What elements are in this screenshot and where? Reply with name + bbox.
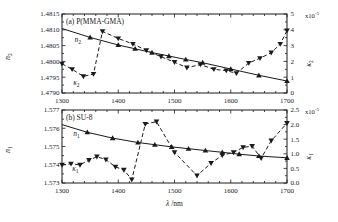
right-tick-label: 0 bbox=[291, 89, 295, 97]
kappa2-marker bbox=[211, 67, 217, 72]
kappa2-label: κ2 bbox=[73, 78, 80, 88]
left-tick-label: 1.4805 bbox=[40, 42, 60, 50]
right-tick-label: 1.5 bbox=[291, 136, 300, 144]
kappa2-marker bbox=[284, 28, 290, 33]
x-axis-title: λ /nm bbox=[165, 199, 183, 208]
x-tick-label: 1300 bbox=[55, 187, 70, 195]
right-tick-label: 5 bbox=[291, 10, 295, 18]
kappa2-marker bbox=[100, 29, 106, 34]
left-tick-label: 1.577 bbox=[44, 106, 60, 114]
left-tick-label: 1.575 bbox=[44, 143, 60, 151]
right-tick-label: 2 bbox=[291, 58, 295, 66]
kappa1-marker bbox=[142, 122, 148, 127]
kappa2-marker bbox=[234, 71, 240, 76]
x-tick-label: 1600 bbox=[224, 97, 239, 105]
left-tick-label: 1.4800 bbox=[40, 58, 60, 66]
left-tick-label: 1.573 bbox=[44, 179, 60, 187]
left-axis-title: n1 bbox=[3, 146, 13, 153]
left-axis-title: n2 bbox=[3, 53, 13, 60]
figure: n2κ2(a) P(MMA-GMA)130014001500160017001.… bbox=[0, 0, 338, 222]
right-tick-label: 2.0 bbox=[291, 121, 300, 129]
kappa1-marker bbox=[208, 161, 214, 166]
right-tick-label: 3 bbox=[291, 42, 295, 50]
kappa2-marker bbox=[277, 42, 283, 47]
right-axis-multiplier: x10-5 bbox=[305, 107, 319, 115]
plot-frame bbox=[62, 14, 287, 93]
kappa1-marker bbox=[284, 121, 290, 126]
panel-b: n1κ1(b) SU-8130014001500160017001.5731.5… bbox=[3, 106, 319, 195]
panel-a: n2κ2(a) P(MMA-GMA)130014001500160017001.… bbox=[3, 10, 319, 105]
kappa2-marker bbox=[81, 74, 87, 79]
left-tick-label: 1.576 bbox=[44, 125, 60, 133]
x-tick-label: 1500 bbox=[168, 187, 183, 195]
n2-label: n2 bbox=[74, 35, 81, 45]
left-tick-label: 1.574 bbox=[44, 161, 60, 169]
kappa2-marker bbox=[59, 62, 65, 67]
right-axis-title: κ1 bbox=[304, 153, 314, 160]
panel-title: (b) SU-8 bbox=[66, 113, 93, 122]
kappa1-marker bbox=[59, 163, 65, 168]
x-tick-label: 1500 bbox=[168, 97, 183, 105]
kappa1-label: κ1 bbox=[72, 164, 79, 174]
right-tick-label: 0.5 bbox=[291, 165, 300, 173]
kappa1-marker bbox=[258, 156, 264, 161]
kappa1-marker bbox=[240, 145, 246, 150]
kappa2-marker bbox=[268, 51, 274, 56]
left-tick-label: 1.4815 bbox=[40, 10, 60, 18]
n2-line bbox=[62, 29, 287, 82]
optical-constants-dual-panel-chart: n2κ2(a) P(MMA-GMA)130014001500160017001.… bbox=[0, 0, 338, 222]
kappa2-marker bbox=[184, 66, 190, 71]
right-tick-label: 4 bbox=[291, 26, 295, 34]
x-tick-label: 1700 bbox=[280, 97, 295, 105]
right-tick-label: 1.0 bbox=[291, 150, 300, 158]
left-tick-label: 1.4790 bbox=[40, 89, 60, 97]
kappa1-marker bbox=[231, 150, 237, 155]
kappa1-marker bbox=[86, 158, 92, 163]
right-tick-label: 0.0 bbox=[291, 179, 300, 187]
right-axis-title: κ2 bbox=[304, 60, 314, 67]
kappa1-marker bbox=[172, 150, 178, 155]
right-axis-multiplier: x10-5 bbox=[305, 11, 319, 19]
kappa1-marker bbox=[268, 139, 274, 144]
kappa1-marker bbox=[121, 168, 127, 173]
x-tick-label: 1300 bbox=[55, 97, 70, 105]
left-tick-label: 1.4810 bbox=[40, 26, 60, 34]
right-tick-label: 1 bbox=[291, 74, 295, 82]
x-tick-label: 1600 bbox=[224, 187, 239, 195]
kappa1-marker bbox=[194, 174, 200, 179]
kappa2-marker bbox=[69, 67, 75, 72]
x-tick-label: 1400 bbox=[111, 187, 126, 195]
right-tick-label: 2.5 bbox=[291, 106, 300, 114]
kappa1-marker bbox=[220, 153, 226, 158]
kappa2-line bbox=[62, 31, 287, 77]
x-tick-label: 1700 bbox=[280, 187, 295, 195]
x-tick-label: 1400 bbox=[111, 97, 126, 105]
left-tick-label: 1.4795 bbox=[40, 74, 60, 82]
panel-title: (a) P(MMA-GMA) bbox=[66, 17, 125, 26]
